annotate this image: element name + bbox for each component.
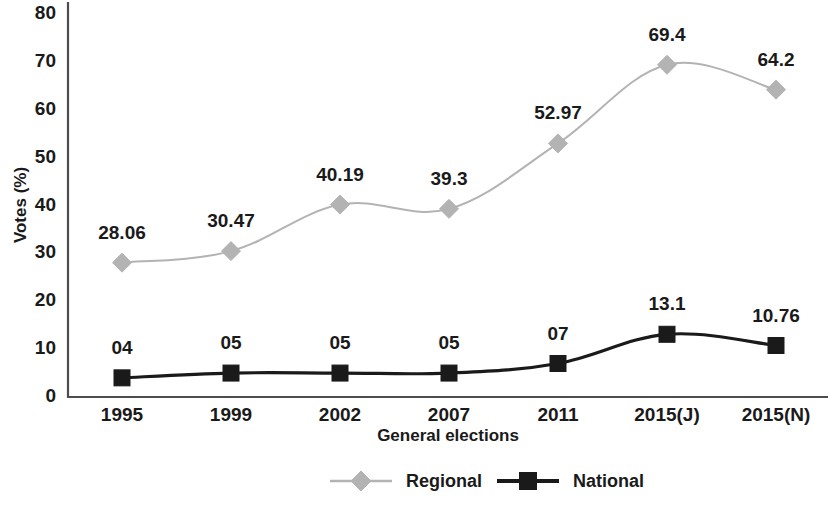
- data-point-marker-diamond: [549, 134, 568, 153]
- x-axis-tick-label: 2011: [537, 404, 579, 425]
- y-axis-tick-label: 40: [35, 194, 56, 215]
- x-axis-tick-label: 2015(N): [742, 404, 811, 425]
- data-point-marker-square: [550, 355, 566, 371]
- data-point-label: 13.1: [649, 293, 686, 314]
- legend-label: National: [573, 471, 644, 491]
- x-axis-tick-label: 1995: [101, 404, 144, 425]
- data-point-marker-diamond: [331, 195, 350, 214]
- y-axis-tick-label: 80: [35, 2, 56, 23]
- data-point-marker-diamond: [113, 253, 132, 272]
- data-point-marker-diamond: [440, 199, 459, 218]
- chart-container: 01020304050607080 Votes (%) 199519992002…: [0, 0, 828, 505]
- data-point-label: 10.76: [752, 305, 800, 326]
- data-point-label: 05: [329, 332, 351, 353]
- data-point-label: 28.06: [98, 222, 146, 243]
- y-axis-title: Votes (%): [11, 167, 30, 243]
- data-point-label: 05: [438, 332, 460, 353]
- y-axis-tick-labels: 01020304050607080: [35, 2, 56, 406]
- y-axis-tick-label: 60: [35, 98, 56, 119]
- data-point-label: 69.4: [649, 24, 686, 45]
- legend-label: Regional: [406, 471, 482, 491]
- x-axis-title: General elections: [377, 426, 519, 445]
- x-axis-tick-label: 2002: [319, 404, 361, 425]
- data-point-marker-diamond: [767, 80, 786, 99]
- data-point-marker-diamond: [658, 55, 677, 74]
- data-point-label: 39.3: [431, 168, 468, 189]
- x-axis-tick-labels: 199519992002200720112015(J)2015(N): [101, 404, 810, 425]
- data-point-marker-square: [114, 370, 130, 386]
- votes-line-chart: 01020304050607080 Votes (%) 199519992002…: [0, 0, 828, 505]
- y-axis-tick-label: 30: [35, 241, 56, 262]
- data-point-marker-square: [768, 337, 784, 353]
- y-axis-tick-label: 10: [35, 337, 56, 358]
- data-point-label: 04: [111, 337, 133, 358]
- y-axis-tick-label: 70: [35, 50, 56, 71]
- y-axis-tick-label: 20: [35, 289, 56, 310]
- y-axis-tick-label: 0: [45, 385, 56, 406]
- chart-series-group: 28.0630.4740.1939.352.9769.464.204050505…: [98, 24, 800, 386]
- legend-marker-square-icon: [520, 473, 537, 490]
- data-point-label: 07: [547, 323, 568, 344]
- data-point-marker-square: [659, 326, 675, 342]
- y-axis-tick-label: 50: [35, 146, 56, 167]
- legend-item-national[interactable]: National: [497, 471, 644, 491]
- data-point-marker-square: [332, 365, 348, 381]
- x-axis-tick-label: 2015(J): [634, 404, 700, 425]
- x-axis-tick-label: 2007: [428, 404, 470, 425]
- legend-item-regional[interactable]: Regional: [330, 471, 482, 491]
- data-point-marker-square: [441, 365, 457, 381]
- x-axis-tick-label: 1999: [210, 404, 252, 425]
- data-point-label: 40.19: [316, 164, 364, 185]
- series-regional: 28.0630.4740.1939.352.9769.464.2: [98, 24, 794, 272]
- data-point-label: 52.97: [534, 102, 582, 123]
- series-national: 040505050713.110.76: [111, 293, 799, 386]
- series-line: [122, 63, 776, 263]
- legend-marker-diamond-icon: [351, 471, 371, 491]
- data-point-marker-square: [223, 365, 239, 381]
- data-point-marker-diamond: [222, 242, 241, 261]
- chart-legend: RegionalNational: [330, 471, 644, 491]
- data-point-label: 30.47: [207, 210, 255, 231]
- data-point-label: 05: [220, 332, 242, 353]
- data-point-label: 64.2: [758, 49, 795, 70]
